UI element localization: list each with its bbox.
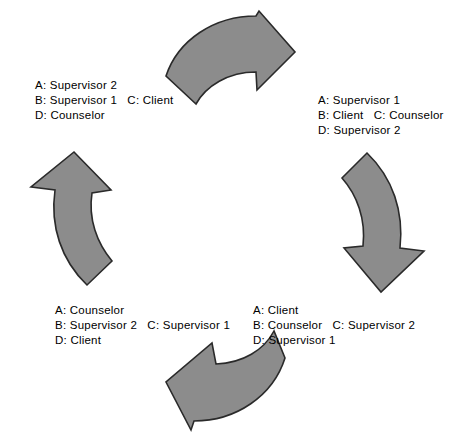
- label-bottom-left-line1: A: Counselor: [55, 303, 230, 318]
- cycle-arrows-svg: [0, 0, 451, 438]
- label-bottom-left: A: Counselor B: Supervisor 2 C: Supervis…: [55, 303, 230, 348]
- left-arrow: [31, 152, 112, 285]
- label-bottom-right-line3: D: Supervisor 1: [253, 333, 415, 348]
- top-arrow: [166, 11, 295, 104]
- right-arrow: [342, 153, 424, 292]
- label-bottom-right-line2: B: Counselor C: Supervisor 2: [253, 318, 415, 333]
- label-top-left: A: Supervisor 2 B: Supervisor 1 C: Clien…: [35, 78, 174, 123]
- label-top-right-line2: B: Client C: Counselor: [318, 108, 444, 123]
- cycle-diagram: A: Supervisor 2 B: Supervisor 1 C: Clien…: [0, 0, 451, 438]
- label-top-right: A: Supervisor 1 B: Client C: Counselor D…: [318, 93, 444, 138]
- label-top-right-line1: A: Supervisor 1: [318, 93, 444, 108]
- label-bottom-left-line2: B: Supervisor 2 C: Supervisor 1: [55, 318, 230, 333]
- label-bottom-left-line3: D: Client: [55, 333, 230, 348]
- label-bottom-right-line1: A: Client: [253, 303, 415, 318]
- label-bottom-right: A: Client B: Counselor C: Supervisor 2 D…: [253, 303, 415, 348]
- label-top-left-line1: A: Supervisor 2: [35, 78, 174, 93]
- label-top-left-line3: D: Counselor: [35, 108, 174, 123]
- label-top-left-line2: B: Supervisor 1 C: Client: [35, 93, 174, 108]
- label-top-right-line3: D: Supervisor 2: [318, 123, 444, 138]
